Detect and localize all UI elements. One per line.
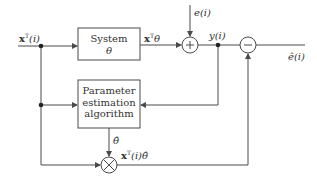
system-block-label: System θ [78,33,140,56]
input-signal-label: xT(i) [19,33,40,44]
system-output-label: xTθ [144,33,160,44]
noise-label: e(i) [194,8,211,18]
error-label: ê(i) [288,52,305,62]
measured-feedback-line [141,45,218,105]
estimator-branch-dot [39,103,44,108]
block-diagram-canvas [0,0,317,183]
measured-junction-dot [216,43,221,48]
measured-label: y(i) [209,31,226,41]
prediction-label: xT(i)θ̂ [121,150,148,161]
theta-hat-label: θ̂ [113,136,119,146]
input-junction-dot [39,44,44,49]
estimator-block-label: Parameter estimation algorithm [78,85,140,120]
